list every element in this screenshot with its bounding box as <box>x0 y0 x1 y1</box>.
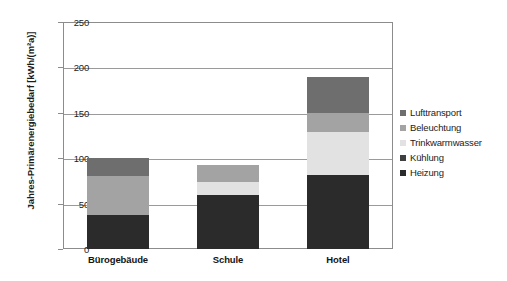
bar-stack <box>87 158 149 249</box>
y-axis-title: Jahres-Primärenergiebedarf [kWh/(m²a)] <box>25 1 36 241</box>
legend-label: Beleuchtung <box>410 122 461 133</box>
x-tick-label: Bürogebäude <box>58 254 178 265</box>
bar-stack <box>197 165 259 249</box>
legend-item[interactable]: Beleuchtung <box>400 120 482 135</box>
x-tick-label: Hotel <box>278 254 398 265</box>
legend-label: Lufttransport <box>410 107 461 118</box>
legend-swatch-icon <box>400 170 406 176</box>
bar-segment[interactable] <box>197 182 259 195</box>
legend-item[interactable]: Trinkwarmwasser <box>400 135 482 150</box>
bar-segment[interactable] <box>87 158 149 176</box>
legend-swatch-icon <box>400 155 406 161</box>
bar-group[interactable] <box>307 22 369 249</box>
legend-label: Trinkwarmwasser <box>410 137 482 148</box>
bar-group[interactable] <box>197 22 259 249</box>
bars-layer <box>63 22 393 249</box>
y-tick-mark <box>58 249 63 250</box>
legend-swatch-icon <box>400 140 406 146</box>
chart-container: Jahres-Primärenergiebedarf [kWh/(m²a)] 0… <box>0 0 507 281</box>
bar-segment[interactable] <box>197 195 259 249</box>
bar-segment[interactable] <box>197 165 259 181</box>
bar-stack <box>307 77 369 250</box>
x-tick-label: Schule <box>168 254 288 265</box>
bar-group[interactable] <box>87 22 149 249</box>
bar-segment[interactable] <box>87 215 149 250</box>
legend-label: Heizung <box>410 167 444 178</box>
legend-label: Kühlung <box>410 152 444 163</box>
bar-segment[interactable] <box>307 113 369 132</box>
legend-swatch-icon <box>400 125 406 131</box>
bar-segment[interactable] <box>307 77 369 113</box>
legend-item[interactable]: Heizung <box>400 165 482 180</box>
bar-segment[interactable] <box>307 175 369 249</box>
legend-item[interactable]: Kühlung <box>400 150 482 165</box>
chart-legend: LufttransportBeleuchtungTrinkwarmwasserK… <box>400 105 482 180</box>
bar-segment[interactable] <box>87 176 149 214</box>
legend-swatch-icon <box>400 110 406 116</box>
legend-item[interactable]: Lufttransport <box>400 105 482 120</box>
bar-segment[interactable] <box>307 132 369 176</box>
